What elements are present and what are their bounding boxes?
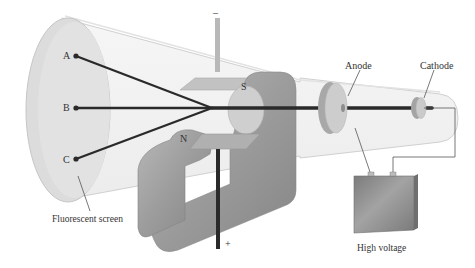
cathode-ray-tube-diagram: S N – + A B C: [0, 0, 475, 268]
terminal-left: [368, 172, 374, 176]
anode: [318, 82, 347, 134]
high-voltage-label: High voltage: [357, 243, 406, 253]
anode-label: Anode: [345, 60, 372, 71]
cathode-label: Cathode: [420, 60, 454, 71]
plate-top-sign: –: [212, 7, 219, 18]
cathode: [411, 97, 426, 119]
high-voltage-source: [354, 172, 418, 233]
point-c-dot: [73, 156, 78, 161]
magnet-north-label: N: [180, 133, 187, 144]
terminal-right: [390, 172, 396, 176]
point-c-label: C: [63, 154, 70, 165]
screen-label: Fluorescent screen: [52, 214, 123, 224]
point-a-label: A: [63, 50, 71, 61]
point-b-label: B: [63, 102, 70, 113]
plate-bottom-sign: +: [225, 238, 231, 249]
point-b-dot: [73, 105, 78, 110]
point-a-dot: [73, 53, 78, 58]
magnet-south-label: S: [241, 81, 247, 92]
